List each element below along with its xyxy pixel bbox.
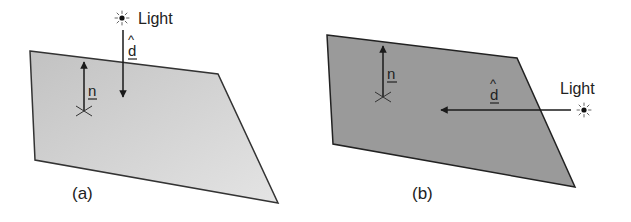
light-source-icon [577,103,591,117]
panel-a: Light ^ d n (a) [30,10,278,203]
direction-label-b: d [490,86,498,103]
light-label-a: Light [138,10,173,27]
caption-b: (b) [412,184,433,203]
lighting-diagram: Light ^ d n (a) n ^ d [0,0,631,222]
surface-a [30,51,278,203]
direction-label-a: d [128,42,136,59]
panel-b: n ^ d Light (b) [327,35,595,203]
normal-label-a: n [88,82,96,99]
normal-label-b: n [387,65,395,82]
surface-b [327,35,575,187]
light-label-b: Light [560,80,595,97]
caption-a: (a) [72,184,93,203]
light-source-icon [115,11,129,25]
